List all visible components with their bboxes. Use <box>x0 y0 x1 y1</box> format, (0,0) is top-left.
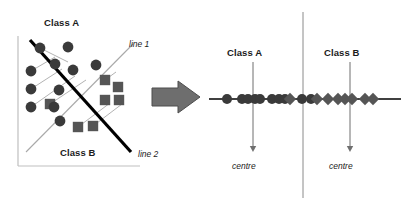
class-b-square <box>73 122 83 132</box>
projected-diamond-marker <box>367 93 379 105</box>
centre-arrow-a-head <box>250 146 256 152</box>
left-class-a-label: Class A <box>44 18 79 28</box>
figure-canvas: Class A Class B line 1 line 2 Class A Cl… <box>0 0 404 207</box>
right-class-b-label: Class B <box>324 48 360 58</box>
class-a-circle <box>63 42 74 53</box>
class-a-circle <box>54 85 65 96</box>
class-a-circle <box>55 116 66 127</box>
line-1-label: line 1 <box>129 40 149 49</box>
class-b-square <box>100 75 110 85</box>
right-projection-panel: Class A Class B centre centre <box>205 0 404 207</box>
arrow-panel <box>148 0 210 207</box>
block-arrow-right-icon <box>152 81 200 113</box>
class-b-square <box>113 82 123 92</box>
projected-circle-marker <box>222 94 232 104</box>
class-b-square <box>88 121 98 131</box>
class-a-circle <box>49 102 60 113</box>
projected-circle-marker <box>255 94 265 104</box>
projected-diamond-marker <box>346 93 358 105</box>
class-a-circle <box>68 65 79 76</box>
left-class-b-label: Class B <box>60 148 96 158</box>
class-b-square <box>100 95 110 105</box>
class-b-square <box>114 95 124 105</box>
class-a-circle <box>35 43 46 54</box>
centre-label-b: centre <box>329 162 353 171</box>
class-a-circle <box>26 84 37 95</box>
class-a-circle <box>50 59 61 70</box>
class-a-circle <box>91 60 102 71</box>
transform-arrow-icon <box>148 0 210 207</box>
class-a-circle <box>26 102 37 113</box>
right-class-a-label: Class A <box>227 48 262 58</box>
centre-arrow-b-head <box>347 146 353 152</box>
number-line-graphic <box>205 0 404 207</box>
projected-circle-marker <box>297 94 307 104</box>
scatter-plot-graphic <box>0 0 150 207</box>
left-scatter-panel: Class A Class B line 1 line 2 <box>0 0 150 207</box>
centre-label-a: centre <box>232 162 256 171</box>
class-a-circle <box>26 66 37 77</box>
